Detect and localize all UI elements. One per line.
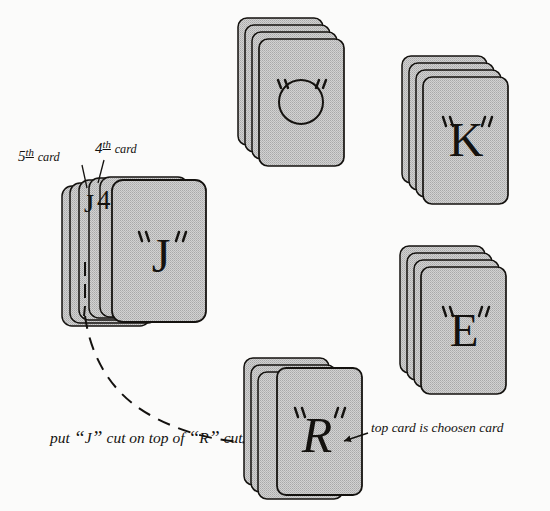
label-top-card: top card is choosen card: [371, 421, 503, 435]
card-top: E: [421, 267, 506, 394]
stack-k: K: [402, 56, 508, 204]
stack-r: R: [244, 358, 362, 499]
fourth-card-mark: 4: [97, 185, 111, 215]
card-top: J: [112, 180, 206, 322]
card-top: K: [423, 77, 508, 204]
stack-j: J J 4: [62, 177, 206, 326]
card-top: [259, 39, 344, 166]
label-fifth-card: 5th card: [18, 147, 60, 164]
card-top: R: [277, 368, 362, 495]
card-letter: J: [152, 229, 171, 282]
dashed-card-edge: [84, 262, 85, 316]
card-letter: E: [450, 304, 479, 356]
fifth-card-mark: J: [84, 189, 94, 218]
label-fourth-card: 4th card: [95, 139, 137, 156]
label-put-cut: put “J” cut on top of “R” cut: [50, 428, 243, 448]
transfer-arc: [85, 316, 252, 443]
figure-canvas: K E: [0, 0, 550, 511]
stack-e: E: [400, 246, 506, 394]
stack-o: [238, 18, 344, 166]
card-letter: K: [449, 113, 484, 166]
